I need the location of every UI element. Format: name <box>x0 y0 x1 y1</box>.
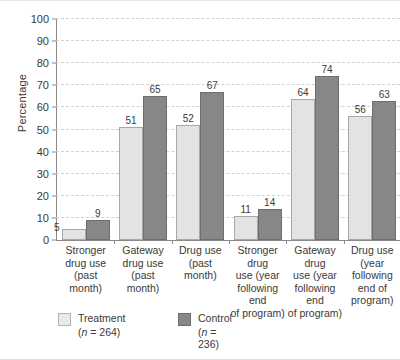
bar-value-label: 5 <box>54 222 60 233</box>
bar-treatment[interactable]: 64 <box>291 99 315 240</box>
category-label-line: Stronger drug <box>229 244 286 269</box>
x-axis-category-labels: Strongerdrug use(past month)Gatewaydrug … <box>57 244 400 302</box>
bar-group: 59 <box>57 19 114 240</box>
bar-value-label: 65 <box>149 84 160 95</box>
category-label-line: end of <box>344 282 400 295</box>
legend-series-name: Control <box>198 312 232 326</box>
legend-item-control[interactable]: Control(n = 236) <box>178 312 232 350</box>
y-axis-tick-mark <box>52 217 56 218</box>
x-axis-category-label: Drug use(past month) <box>172 244 229 282</box>
bar-treatment[interactable]: 5 <box>62 229 86 240</box>
y-axis-tick-label: 0 <box>43 234 49 246</box>
legend-series-name: Treatment <box>78 312 125 326</box>
legend-sample-size: (n = 264) <box>78 326 125 338</box>
x-axis-category-label: Strongerdrug use(past month) <box>57 244 114 294</box>
y-axis-tick-mark <box>52 63 56 64</box>
bar-value-label: 74 <box>321 64 332 75</box>
category-label-line: of program) <box>229 307 286 320</box>
category-label-line: (past month) <box>172 257 229 282</box>
bar-value-label: 56 <box>355 104 366 115</box>
category-label-line: use (year <box>286 269 343 282</box>
bar-value-label: 9 <box>95 208 101 219</box>
plot-area: 0102030405060708090100 59516552671114647… <box>56 19 400 241</box>
y-axis-title: Percentage <box>16 43 28 163</box>
y-axis-tick-label: 80 <box>37 57 49 69</box>
y-axis-tick-mark <box>52 173 56 174</box>
x-axis-category-label: Gateway druguse (yearfollowing endof pro… <box>286 244 343 319</box>
x-axis-category-label: Stronger druguse (yearfollowing endof pr… <box>229 244 286 319</box>
category-label-line: Gateway <box>114 244 171 257</box>
y-axis-tick-mark <box>52 19 56 20</box>
category-label-line: (year following <box>344 257 400 282</box>
category-label-line: following end <box>229 282 286 307</box>
category-label-line: program) <box>344 294 400 307</box>
category-label-line: (past month) <box>114 269 171 294</box>
bar-value-label: 63 <box>379 89 390 100</box>
bar-group: 6474 <box>286 19 343 240</box>
y-axis-tick-label: 20 <box>37 190 49 202</box>
bar-group: 5267 <box>172 19 229 240</box>
y-axis-tick-mark <box>52 85 56 86</box>
bar-series-container: 5951655267111464745663 <box>57 19 400 240</box>
y-axis-tick-label: 50 <box>37 124 49 136</box>
bar-control[interactable]: 14 <box>258 209 282 240</box>
bar-treatment[interactable]: 51 <box>119 127 143 240</box>
bar-value-label: 64 <box>297 87 308 98</box>
bar-value-label: 11 <box>240 204 250 215</box>
x-axis-category-label: Drug use(year followingend ofprogram) <box>344 244 400 307</box>
chart-figure: Percentage 0102030405060708090100 595165… <box>0 0 400 360</box>
y-axis-tick-label: 60 <box>37 101 49 113</box>
bar-treatment[interactable]: 56 <box>348 116 372 240</box>
category-label-line: drug use <box>114 257 171 270</box>
bar-group: 5663 <box>344 19 400 240</box>
bar-value-label: 67 <box>207 80 218 91</box>
category-label-line: (past month) <box>57 269 114 294</box>
category-label-line: use (year <box>229 269 286 282</box>
category-label-line: Drug use <box>172 244 229 257</box>
legend-item-treatment[interactable]: Treatment(n = 264) <box>58 312 125 338</box>
bar-value-label: 52 <box>183 113 194 124</box>
bar-control[interactable]: 63 <box>372 101 396 240</box>
legend-text: Treatment(n = 264) <box>78 312 125 338</box>
y-axis-tick-label: 100 <box>31 13 49 25</box>
y-axis-tick-label: 40 <box>37 146 49 158</box>
bar-treatment[interactable]: 11 <box>234 216 258 240</box>
bar-value-label: 51 <box>125 115 136 126</box>
bar-group: 1114 <box>229 19 286 240</box>
y-axis-tick-label: 70 <box>37 79 49 91</box>
bar-control[interactable]: 9 <box>86 220 110 240</box>
bar-group: 5165 <box>114 19 171 240</box>
legend-swatch-treatment <box>58 313 71 326</box>
category-label-line: of program) <box>286 307 343 320</box>
bar-control[interactable]: 67 <box>200 92 224 240</box>
y-axis-tick-mark <box>52 240 56 241</box>
bar-value-label: 14 <box>264 197 275 208</box>
y-axis-tick-mark <box>52 195 56 196</box>
category-label-line: following end <box>286 282 343 307</box>
category-label-line: Gateway drug <box>286 244 343 269</box>
bar-treatment[interactable]: 52 <box>176 125 200 240</box>
legend-sample-size: (n = 236) <box>198 326 232 350</box>
category-label-line: drug use <box>57 257 114 270</box>
y-axis-tick-mark <box>52 129 56 130</box>
legend-swatch-control <box>178 313 191 326</box>
bar-control[interactable]: 74 <box>315 76 339 240</box>
y-axis-tick-label: 90 <box>37 35 49 47</box>
y-axis-tick-label: 30 <box>37 168 49 180</box>
y-axis-tick-mark <box>52 41 56 42</box>
legend-text: Control(n = 236) <box>198 312 232 350</box>
category-label-line: Stronger <box>57 244 114 257</box>
bar-control[interactable]: 65 <box>143 96 167 240</box>
category-label-line: Drug use <box>344 244 400 257</box>
y-axis-tick-mark <box>52 107 56 108</box>
y-axis-tick-mark <box>52 151 56 152</box>
y-axis-tick-label: 10 <box>37 212 49 224</box>
x-axis-category-label: Gatewaydrug use(past month) <box>114 244 171 294</box>
